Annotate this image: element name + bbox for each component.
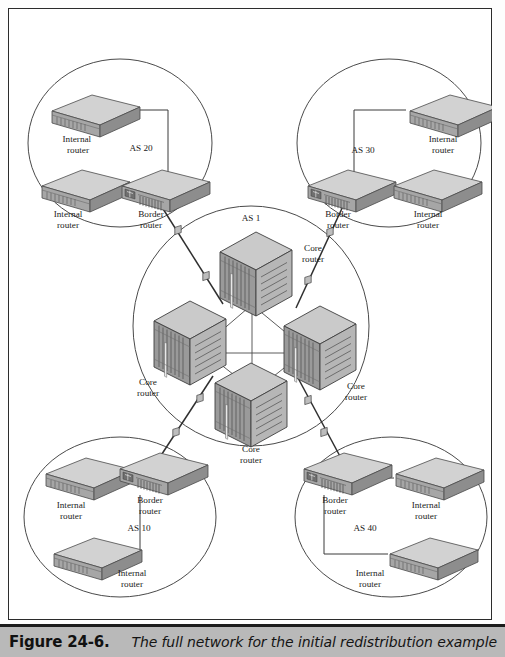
as-label-as10: AS 10	[127, 523, 151, 533]
label-core-router-left: Corerouter	[137, 377, 159, 398]
core-router-left[interactable]	[154, 301, 226, 385]
internal-router-as20-top[interactable]	[52, 95, 140, 137]
link-as20-to-as1	[160, 204, 223, 304]
network-diagram: Internal router Internalrouter Borderrou…	[8, 8, 492, 620]
label-core-router-top: Corerouter	[302, 243, 324, 264]
border-router-as30[interactable]	[308, 170, 396, 212]
internal-router-as20-bottom[interactable]	[42, 170, 130, 212]
label-internal-router-as10-top: Internalrouter	[57, 500, 86, 521]
label-internal-router-as40-top: Internalrouter	[412, 500, 441, 521]
figure-number: Figure 24-6.	[9, 633, 109, 651]
figure-caption-bar: Figure 24-6. The full network for the in…	[0, 624, 505, 657]
label-border-router-as10: Borderrouter	[137, 495, 163, 516]
as-label-as40: AS 40	[353, 523, 377, 533]
label-internal-router-as20-top: Internal router	[63, 134, 94, 155]
figure-root: Internal router Internalrouter Borderrou…	[0, 0, 505, 657]
core-router-right[interactable]	[284, 306, 356, 390]
label-internal-router-as30-bottom: Internalrouter	[414, 209, 443, 230]
label-border-router-as40: Borderrouter	[322, 495, 348, 516]
label-border-router-as20: Borderrouter	[138, 209, 164, 230]
link-as10-to-as1	[158, 376, 213, 460]
as20-group: Internal router Internalrouter Borderrou…	[42, 95, 210, 230]
label-internal-router-as20-bottom: Internalrouter	[54, 209, 83, 230]
label-internal-router-as10-bottom: Internalrouter	[118, 568, 147, 589]
label-border-router-as30: Borderrouter	[325, 209, 351, 230]
as40-group: Borderrouter Internalrouter Internalrout…	[304, 453, 484, 589]
diagram-canvas: Internal router Internalrouter Borderrou…	[8, 8, 492, 620]
internal-router-as30-bottom[interactable]	[394, 170, 482, 212]
figure-caption-text: The full network for the initial redistr…	[131, 634, 497, 650]
label-internal-router-as30-top: Internalrouter	[429, 134, 458, 155]
border-router-as20[interactable]	[122, 170, 210, 212]
core-router-bottom[interactable]	[215, 363, 287, 447]
as30-group: Internalrouter Borderrouter Internalrout…	[308, 95, 492, 230]
as-label-as1: AS 1	[242, 213, 261, 223]
as-label-as30: AS 30	[351, 145, 375, 155]
internal-router-as40-bottom[interactable]	[390, 538, 478, 580]
border-router-as10[interactable]	[120, 453, 208, 495]
label-core-router-right: Corerouter	[345, 381, 367, 402]
core-router-top[interactable]	[220, 232, 292, 316]
as-label-as20: AS 20	[129, 143, 153, 153]
label-core-router-bottom: Corerouter	[240, 444, 262, 465]
label-internal-router-as40-bottom: Internalrouter	[356, 568, 385, 589]
internal-router-as40-top[interactable]	[396, 458, 484, 500]
as10-group: Internalrouter Borderrouter Internalrout…	[46, 453, 208, 589]
border-router-as40[interactable]	[304, 453, 392, 495]
